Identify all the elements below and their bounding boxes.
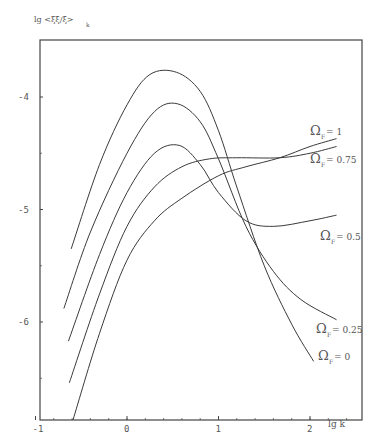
svg-text:= 0.5: = 0.5 [336, 232, 361, 242]
y-axis-title: lg <ξξ/ξ> k [34, 15, 90, 28]
svg-text:F: F [331, 238, 335, 245]
y-tick-label: -5 [18, 205, 29, 215]
line-chart: -1012-4-5-6 ΩF= 1ΩF= 0.75ΩF= 0.5ΩF= 0.25… [0, 0, 380, 448]
plot-frame [40, 40, 362, 420]
svg-text:Ω: Ω [310, 123, 321, 138]
curve-label: ΩF= 0.25 [316, 321, 363, 338]
curve-0.75 [69, 147, 336, 383]
curve-0.25 [64, 103, 337, 320]
svg-text:F: F [327, 331, 331, 338]
curve-label: ΩF= 0.75 [310, 151, 357, 168]
curves [64, 70, 337, 420]
plot-border [40, 40, 362, 420]
x-tick-label: -1 [33, 424, 44, 434]
x-tick-label: 0 [124, 424, 129, 434]
x-tick-label: 1 [216, 424, 221, 434]
svg-text:= 0.75: = 0.75 [326, 155, 357, 165]
x-axis-title: lg k [328, 419, 346, 429]
svg-text:Ω: Ω [320, 228, 331, 243]
curve-0 [71, 70, 313, 361]
y-axis-title-text: lg <ξξ/ξ> [34, 15, 74, 24]
curve-label: ΩF= 1 [310, 123, 342, 140]
svg-text:Ω: Ω [318, 348, 329, 363]
svg-text:F: F [321, 133, 325, 140]
svg-text:Ω: Ω [310, 151, 321, 166]
y-axis-title-sub: k [86, 21, 90, 28]
curve-label: ΩF= 0.5 [320, 228, 361, 245]
y-tick-label: -4 [18, 92, 29, 102]
curve-labels: ΩF= 1ΩF= 0.75ΩF= 0.5ΩF= 0.25ΩF= 0 [310, 123, 363, 365]
svg-text:F: F [321, 161, 325, 168]
svg-text:Ω: Ω [316, 321, 327, 336]
axis-ticks: -1012-4-5-6 [18, 92, 347, 434]
x-tick-label: 2 [307, 424, 312, 434]
y-tick-label: -6 [18, 317, 29, 327]
svg-text:F: F [329, 358, 333, 365]
svg-text:= 1: = 1 [326, 127, 342, 137]
curve-label: ΩF= 0 [318, 348, 350, 365]
svg-text:= 0: = 0 [334, 352, 350, 362]
curve-0.5 [68, 145, 336, 341]
svg-text:= 0.25: = 0.25 [332, 325, 363, 335]
